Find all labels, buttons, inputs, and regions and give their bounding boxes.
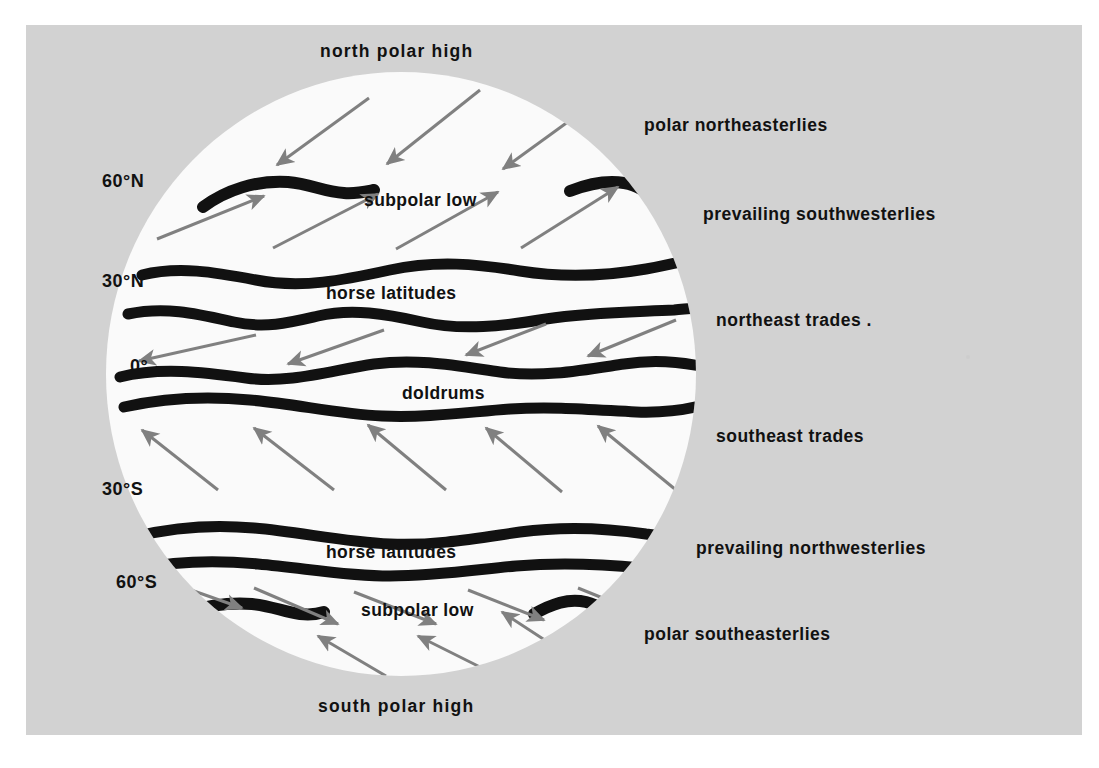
wind-arrow xyxy=(277,98,369,165)
label-south-polar-high: south polar high xyxy=(318,698,474,716)
wind-arrow xyxy=(503,116,576,169)
wind-arrow xyxy=(418,636,482,668)
inner-label-horse-latitudes-north: horse latitudes xyxy=(326,285,456,303)
wind-arrow xyxy=(234,636,286,668)
label-polar-southeasterlies: polar southeasterlies xyxy=(644,626,831,644)
latitude-tick-30s: 30°S xyxy=(102,480,143,498)
wind-arrow xyxy=(588,320,676,356)
latitude-tick-60s: 60°S xyxy=(116,573,157,591)
latitude-tick-0: 0° xyxy=(130,357,148,375)
front-subpolar-low-north-left xyxy=(203,182,374,207)
wind-arrow xyxy=(318,636,386,676)
wind-arrow xyxy=(139,335,256,361)
label-southeast-trades: southeast trades xyxy=(716,428,864,446)
wind-arrow xyxy=(142,430,218,490)
front-horse-latitudes-north-upper xyxy=(142,258,696,284)
latitude-tick-30n: 30°N xyxy=(102,272,144,290)
wind-arrow xyxy=(254,428,334,490)
front-horse-latitudes-north-lower xyxy=(128,308,696,327)
arrow-group-polar-northeasterlies xyxy=(277,90,576,169)
inner-label-doldrums: doldrums xyxy=(402,385,485,403)
figure-page: subpolar low horse latitudes doldrums ho… xyxy=(0,0,1099,768)
wind-arrow xyxy=(273,194,378,248)
inner-label-subpolar-low-north: subpolar low xyxy=(364,192,477,210)
inner-label-subpolar-low-south: subpolar low xyxy=(361,602,474,620)
wind-arrow xyxy=(368,425,446,490)
wind-arrow xyxy=(486,428,562,492)
label-northeast-trades: northeast trades . xyxy=(716,312,872,330)
globe-graphics xyxy=(106,72,696,676)
wind-arrow xyxy=(598,426,676,490)
latitude-tick-60n: 60°N xyxy=(102,172,144,190)
arrow-group-southeast-trades xyxy=(142,425,676,492)
label-north-polar-high: north polar high xyxy=(320,43,473,61)
label-prevailing-northwesterlies: prevailing northwesterlies xyxy=(696,540,926,558)
paper-speck xyxy=(966,355,970,359)
label-prevailing-southwesterlies: prevailing southwesterlies xyxy=(703,206,936,224)
front-doldrums-upper xyxy=(120,361,696,379)
arrow-group-polar-southeasterlies xyxy=(234,612,560,676)
inner-label-horse-latitudes-south: horse latitudes xyxy=(326,544,456,562)
label-polar-northeasterlies: polar northeasterlies xyxy=(644,117,828,135)
diagram-plate: subpolar low horse latitudes doldrums ho… xyxy=(26,25,1082,735)
globe-disc: subpolar low horse latitudes doldrums ho… xyxy=(106,72,696,676)
wind-arrow xyxy=(288,330,384,364)
wind-arrow xyxy=(387,90,480,164)
front-horse-latitudes-south-lower xyxy=(138,562,694,576)
